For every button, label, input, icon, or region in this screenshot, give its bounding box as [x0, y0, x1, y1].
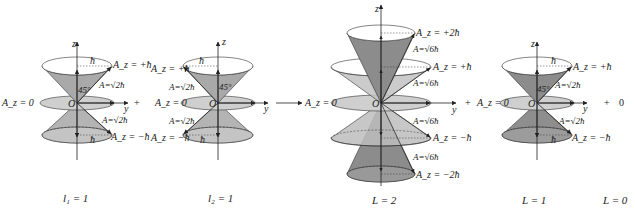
- caption-l2: l₂ = 1: [208, 192, 233, 204]
- label-az-plus: A_z = +ħ: [150, 63, 190, 74]
- panel-l1: z y O 45° ħ ħ A_z = +ħ A=√2ħ A_z = 0 A=√…: [1, 38, 152, 204]
- z-axis-label: z: [221, 36, 226, 47]
- y-axis-label: y: [123, 103, 129, 114]
- label-az-minus: A_z = −ħ: [110, 131, 150, 142]
- z-axis-label: z: [71, 38, 76, 49]
- radius-label-top: ħ: [551, 55, 556, 66]
- label-mag-top: A=√2ħ: [554, 80, 581, 90]
- angle-label: 45°: [537, 84, 550, 94]
- plus-operator-2: +: [465, 97, 471, 108]
- zero-value: 0: [619, 97, 624, 108]
- angular-momentum-coupling-diagram: z y O 45° ħ ħ A_z = +ħ A=√2ħ A_z = 0 A=√…: [0, 0, 635, 216]
- label-az-minus: A_z = −ħ: [150, 132, 190, 143]
- label-mag-bottom: A=√2ħ: [168, 116, 195, 126]
- caption-l1: l₁ = 1: [63, 192, 88, 204]
- origin-label: O: [68, 98, 75, 109]
- label-mag-top: A=√2ħ: [168, 82, 195, 92]
- label-az-plus: A_z = +ħ: [112, 59, 152, 70]
- label-mag-top: A=√2ħ: [98, 80, 125, 90]
- radius-label-top: ħ: [90, 55, 95, 66]
- label-az-plus: A_z = +ħ: [572, 61, 612, 72]
- y-axis-label: y: [451, 104, 457, 115]
- radius-label-top: ħ: [199, 55, 204, 66]
- origin-label: O: [209, 98, 216, 109]
- caption-L2: L = 2: [371, 194, 397, 206]
- label-az-minus2: A_z = −2ħ: [415, 169, 460, 180]
- radius-label-bottom: ħ: [200, 134, 205, 145]
- panel-L1: z y O 45° ħ ħ A_z = +ħ A=√2ħ A_z = 0 A=√…: [476, 38, 612, 206]
- plus-operator-1: +: [134, 97, 140, 108]
- panel-l2: z y O 45° ħ ħ A_z = +ħ A=√2ħ A_z = 0 A=√…: [150, 36, 269, 204]
- y-axis-label: y: [263, 103, 269, 114]
- radius-label-bottom: ħ: [551, 134, 556, 145]
- caption-L0: L = 0: [602, 194, 628, 206]
- origin-label: O: [528, 98, 535, 109]
- panel-L0: + 0 L = 0: [602, 97, 628, 206]
- label-mag-3: A=√6ħ: [412, 116, 439, 126]
- label-az-zero: A_z = 0: [1, 97, 34, 108]
- label-az-plus1: A_z = +ħ: [432, 61, 472, 72]
- label-az-minus: A_z = −ħ: [571, 132, 611, 143]
- label-mag-2: A=√6ħ: [412, 78, 439, 88]
- origin-label: O: [372, 98, 379, 109]
- angle-label: 45°: [78, 85, 91, 95]
- label-mag-1: A=√6ħ: [412, 44, 439, 54]
- angle-label: 45°: [219, 82, 232, 92]
- label-az-minus1: A_z = −ħ: [432, 132, 472, 143]
- label-mag-bottom: A=√2ħ: [558, 116, 585, 126]
- plus-operator-3: +: [604, 97, 610, 108]
- label-mag-4: A=√6ħ: [412, 152, 439, 162]
- label-az-zero: A_z = 0: [154, 97, 187, 108]
- z-axis-label: z: [530, 38, 535, 49]
- label-az-plus2: A_z = +2ħ: [415, 27, 460, 38]
- radius-label-bottom: ħ: [90, 134, 95, 145]
- y-axis-label: y: [582, 103, 588, 114]
- label-az-zero: A_z = 0: [476, 97, 509, 108]
- label-az-zero: A_z = 0: [304, 97, 337, 108]
- z-axis-label: z: [374, 3, 379, 14]
- label-mag-bottom: A=√2ħ: [101, 115, 128, 125]
- panel-L2: z y O A_z = +2ħ A=√6ħ A_z = +ħ A=√6ħ A_z…: [304, 3, 472, 206]
- caption-L1: L = 1: [521, 194, 546, 206]
